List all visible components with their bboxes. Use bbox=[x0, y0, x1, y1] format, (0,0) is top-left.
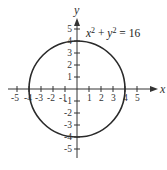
x-axis-label: x bbox=[159, 82, 166, 96]
svg-text:5: 5 bbox=[67, 24, 72, 34]
svg-text:5: 5 bbox=[135, 93, 140, 103]
svg-text:-1: -1 bbox=[64, 96, 72, 106]
svg-text:2: 2 bbox=[67, 60, 72, 70]
svg-text:-5: -5 bbox=[64, 144, 72, 154]
svg-text:-2: -2 bbox=[47, 93, 55, 103]
svg-text:-3: -3 bbox=[64, 120, 72, 130]
equation-label: x2 + y2 = 16 bbox=[85, 26, 140, 40]
svg-text:2: 2 bbox=[99, 93, 104, 103]
x-axis-arrow-icon bbox=[150, 86, 158, 92]
svg-text:1: 1 bbox=[67, 72, 72, 82]
y-axis: y bbox=[73, 3, 80, 158]
y-axis-arrow-icon bbox=[74, 18, 80, 26]
svg-text:3: 3 bbox=[111, 93, 116, 103]
circle-graph: x y -5 -4 -3 -2 -1 1 2 3 4 5 bbox=[0, 0, 167, 170]
svg-text:3: 3 bbox=[67, 48, 72, 58]
svg-text:-5: -5 bbox=[11, 93, 19, 103]
y-axis-label: y bbox=[73, 3, 80, 17]
svg-text:1: 1 bbox=[87, 93, 92, 103]
svg-text:-3: -3 bbox=[35, 93, 43, 103]
svg-text:-2: -2 bbox=[64, 108, 72, 118]
